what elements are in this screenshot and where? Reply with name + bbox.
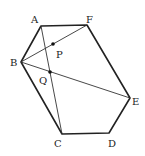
point-P: [51, 42, 55, 46]
label-P: P: [56, 49, 63, 60]
label-E: E: [132, 96, 139, 107]
label-B: B: [10, 57, 17, 68]
hexagon-outline: [21, 25, 130, 134]
label-D: D: [108, 138, 116, 149]
label-F: F: [86, 14, 93, 25]
point-Q: [48, 70, 52, 74]
hexagon-diagram: A F E D C B P Q: [0, 0, 145, 156]
label-C: C: [54, 138, 62, 149]
segment-BE: [21, 62, 130, 98]
label-A: A: [30, 14, 39, 25]
label-Q: Q: [39, 75, 47, 86]
